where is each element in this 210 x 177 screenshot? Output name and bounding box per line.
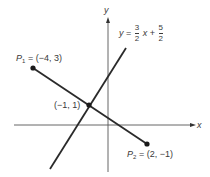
x-axis-arrow-icon [190,123,196,127]
equation-var: x [143,28,148,38]
equation-plus: + [150,28,155,38]
coordinate-plane [0,0,210,177]
point-intersection [86,102,91,107]
p2-label: P2 = (2, −1) [127,150,173,160]
point-p1 [30,65,35,70]
equation-lhs: y [119,28,124,38]
equation-equals: = [126,28,131,38]
p1-label: P1 = (−4, 3) [16,54,62,64]
intersection-label: (−1, 1) [54,101,80,110]
point-p2 [144,141,149,146]
fraction-5-over-2: 5 2 [159,24,163,43]
y-axis-label: y [104,6,109,15]
y-axis-arrow-icon [106,17,110,23]
x-axis-label: x [197,121,202,130]
line-equation-label: y = 3 2 x + 5 2 [119,24,164,43]
fraction-3-over-2: 3 2 [135,24,139,43]
